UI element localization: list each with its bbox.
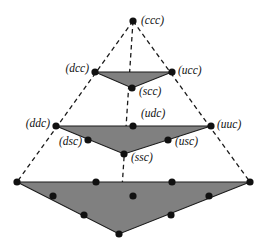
lattice-node-bottom-row1-p4 [246,178,253,185]
lattice-node-ssc [120,150,127,157]
lattice-node-bottom-row1-p3 [168,178,175,185]
vertex-label-dcc: (dcc) [65,62,89,75]
lattice-node-udc [129,122,136,129]
lattice-node-bottom-row1-p1 [13,178,20,185]
lattice-node-scc [128,84,135,91]
lattice-node-ddc [52,122,59,129]
vertex-label-ddc: (ddc) [26,117,50,130]
lattice-node-bottom-row2-p2 [129,192,136,199]
lattice-node-ucc [168,68,175,75]
vertex-label-dsc: (dsc) [59,135,82,148]
lattice-node-bottom-apex [115,230,122,237]
vertex-label-uuc: (uuc) [217,118,241,131]
vertex-label-ccc: (ccc) [141,14,164,27]
vertex-label-scc: (scc) [139,85,162,98]
lattice-node-bottom-row2-p3 [205,192,212,199]
lattice-node-bottom-row3-p1 [80,211,87,218]
simplex-lattice-diagram: (ccc)(dcc)(ucc)(scc)(ddc)(udc)(uuc)(dsc)… [0,0,266,248]
lattice-node-bottom-row2-p1 [49,192,56,199]
lattice-node-bottom-row3-p2 [167,211,174,218]
lattice-node-dcc [91,68,98,75]
vertex-label-udc: (udc) [141,107,165,120]
lattice-node-bottom-row1-p2 [92,178,99,185]
diagram-canvas: (ccc)(dcc)(ucc)(scc)(ddc)(udc)(uuc)(dsc)… [0,0,266,248]
lattice-node-dsc [84,136,91,143]
lattice-node-ccc [129,17,136,24]
lattice-node-uuc [207,122,214,129]
vertex-label-ssc: (ssc) [131,151,153,164]
vertex-label-usc: (usc) [175,135,198,148]
lattice-node-usc [164,136,171,143]
vertex-label-ucc: (ucc) [178,64,202,77]
